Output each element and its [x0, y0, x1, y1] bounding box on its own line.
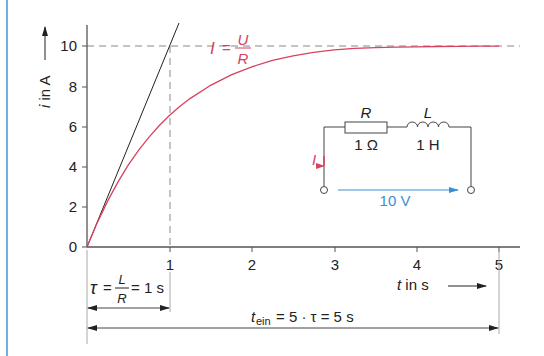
y-tick-4: 4 — [69, 158, 77, 175]
y-tick-0: 0 — [69, 238, 77, 255]
tau-annotation: τ = L R = 1 s — [87, 250, 170, 344]
x-tick-4: 4 — [413, 256, 421, 273]
svg-text:=: = — [103, 279, 112, 296]
x-tick-1: 1 — [166, 256, 174, 273]
y-tick-2: 2 — [69, 198, 77, 215]
inductor-name: L — [424, 104, 432, 121]
svg-text:=: = — [222, 39, 231, 56]
svg-text:ein: ein — [256, 315, 271, 327]
svg-text:R: R — [117, 291, 126, 306]
svg-text:τ: τ — [90, 278, 98, 298]
x-axis — [87, 247, 520, 252]
inductor-symbol — [407, 122, 449, 127]
x-tick-3: 3 — [331, 256, 339, 273]
y-tick-8: 8 — [69, 78, 77, 95]
resistor-symbol — [345, 122, 387, 133]
y-tick-10: 10 — [60, 37, 77, 54]
chart-figure: 10 8 6 4 2 0 1 2 3 4 5 i in A t in s I =… — [0, 0, 544, 356]
svg-text:= 5 · τ = 5 s: = 5 · τ = 5 s — [276, 308, 354, 325]
svg-text:U: U — [238, 31, 249, 48]
asymptote-label: I = U R — [210, 31, 251, 67]
resistor-name: R — [361, 104, 372, 121]
voltage-label: 10 V — [380, 192, 411, 209]
svg-text:= 1 s: = 1 s — [131, 279, 164, 296]
terminal-left — [321, 187, 328, 194]
svg-text:I: I — [210, 39, 215, 58]
svg-text:R: R — [238, 50, 249, 67]
resistor-value: 1 Ω — [354, 136, 378, 153]
rl-circuit — [321, 122, 475, 194]
terminal-right — [468, 187, 475, 194]
y-tick-6: 6 — [69, 118, 77, 135]
x-tick-2: 2 — [248, 256, 256, 273]
y-axis — [82, 25, 87, 247]
svg-text:i in A: i in A — [36, 75, 53, 108]
x-axis-label: t in s — [397, 276, 429, 293]
svg-text:L: L — [118, 272, 125, 287]
inductor-value: 1 H — [416, 136, 439, 153]
y-axis-label: i in A — [36, 75, 53, 108]
current-label: I — [312, 151, 316, 168]
tangent-line — [87, 23, 179, 247]
